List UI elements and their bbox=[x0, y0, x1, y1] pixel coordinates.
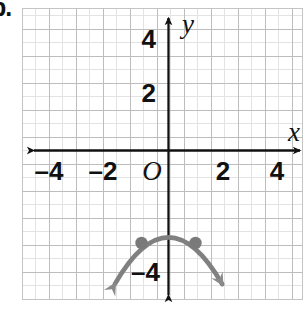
coordinate-plane: –4 –2 2 4 O 4 2 –4 y x bbox=[0, 0, 306, 309]
plot-point-right bbox=[189, 237, 201, 249]
y-tick-label-neg4: –4 bbox=[131, 257, 160, 287]
graph-figure: b. bbox=[0, 0, 306, 309]
x-tick-label-neg4: –4 bbox=[35, 156, 64, 186]
plot-background bbox=[22, 8, 303, 300]
y-axis-label: y bbox=[179, 9, 194, 39]
origin-label: O bbox=[142, 156, 162, 186]
x-axis-label: x bbox=[287, 117, 300, 147]
x-tick-label-2: 2 bbox=[216, 156, 230, 186]
y-tick-label-4: 4 bbox=[142, 24, 157, 54]
plot-point-left bbox=[135, 237, 147, 249]
x-tick-label-4: 4 bbox=[270, 156, 285, 186]
x-tick-label-neg2: –2 bbox=[89, 156, 118, 186]
y-tick-label-2: 2 bbox=[142, 78, 156, 108]
